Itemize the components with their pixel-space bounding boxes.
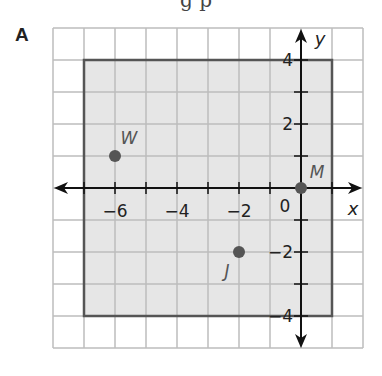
coordinate-plane: −6−4−242−2−40xy WMJ xyxy=(0,0,382,376)
point-j xyxy=(233,246,245,258)
y-tick-label: −2 xyxy=(268,242,293,262)
y-axis-label: y xyxy=(314,28,326,49)
point-label-m: M xyxy=(310,162,325,182)
x-tick-label: −2 xyxy=(226,201,251,221)
point-m xyxy=(295,182,307,194)
x-tick-label: −6 xyxy=(102,201,127,221)
point-w xyxy=(109,150,121,162)
y-tick-label: −4 xyxy=(268,306,293,326)
x-tick-label: −4 xyxy=(164,201,189,221)
y-tick-label: 4 xyxy=(282,50,293,70)
origin-label: 0 xyxy=(280,196,291,216)
y-tick-label: 2 xyxy=(282,114,293,134)
x-axis-label: x xyxy=(347,198,359,219)
point-label-w: W xyxy=(121,128,139,148)
